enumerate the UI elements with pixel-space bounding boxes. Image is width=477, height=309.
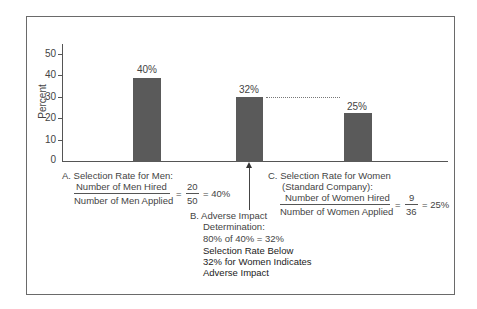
arrow-shaft: [249, 166, 250, 210]
note-a-fraction-bar: [74, 193, 170, 194]
note-a-denominator: Number of Men Applied: [74, 195, 173, 206]
note-b-line2: Determination:: [203, 221, 265, 232]
threshold-reference-line: [266, 97, 340, 98]
note-c-result: = 25%: [422, 199, 449, 210]
y-tick: [58, 54, 62, 55]
bar-men: [133, 78, 161, 162]
note-b-line6: Adverse Impact: [203, 267, 269, 278]
note-a-heading: A. Selection Rate for Men:: [62, 170, 173, 181]
y-axis-label: Percent: [37, 82, 48, 122]
note-a-frac-den: 50: [187, 195, 198, 206]
y-tick: [58, 118, 62, 119]
y-tick: [58, 97, 62, 98]
y-tick-label: 10: [34, 135, 56, 145]
note-c-fraction-bar: [280, 204, 390, 205]
note-c-denominator: Number of Women Applied: [280, 206, 393, 217]
y-tick: [58, 75, 62, 76]
y-tick-label: 0: [34, 155, 56, 165]
note-b-line1: B. Adverse Impact: [190, 210, 267, 221]
note-a-small-fraction-bar: [186, 193, 199, 194]
bar-women: [344, 113, 372, 162]
note-a-frac-num: 20: [187, 181, 198, 192]
bar-label-women: 25%: [337, 101, 377, 112]
note-c-line2: (Standard Company):: [282, 181, 373, 192]
bar-threshold: [236, 97, 263, 162]
y-axis: [62, 44, 63, 162]
note-b-line5: 32% for Women Indicates: [203, 256, 312, 267]
note-a-numerator: Number of Men Hired: [76, 181, 167, 192]
y-tick-label: 40: [34, 70, 56, 80]
bar-label-threshold: 32%: [229, 84, 269, 95]
note-c-line1: C. Selection Rate for Women: [268, 170, 391, 181]
note-c-equals: =: [395, 199, 401, 210]
note-c-small-fraction-bar: [405, 204, 418, 205]
note-a-result: = 40%: [203, 188, 230, 199]
note-b-line4: Selection Rate Below: [203, 245, 293, 256]
note-c-frac-den: 36: [406, 206, 417, 217]
note-b-line3: 80% of 40% = 32%: [203, 233, 284, 244]
y-tick-label: 50: [34, 49, 56, 59]
note-c-frac-num: 9: [409, 192, 414, 203]
note-a-equals: =: [176, 188, 182, 199]
arrow-up-icon: [246, 162, 252, 168]
y-tick: [58, 140, 62, 141]
bar-label-men: 40%: [127, 64, 167, 75]
note-c-numerator: Number of Women Hired: [285, 192, 390, 203]
